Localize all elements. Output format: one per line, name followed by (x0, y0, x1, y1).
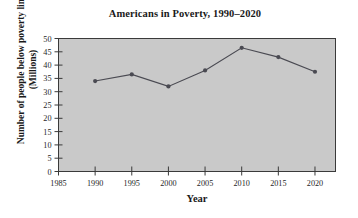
y-tick-label: 0 (47, 168, 51, 177)
y-tick-label: 5 (47, 154, 51, 163)
data-point-marker (203, 68, 207, 72)
x-tick-label: 1990 (87, 179, 103, 188)
y-tick-label: 45 (43, 48, 51, 57)
plot-canvas: 05101520253035404550 1985199019952000200… (0, 0, 358, 218)
data-point-marker (166, 84, 170, 88)
x-tick-label: 1995 (124, 179, 140, 188)
y-tick-label: 40 (43, 61, 51, 70)
y-tick-label: 15 (43, 128, 51, 137)
x-tick-label: 2010 (234, 179, 250, 188)
data-point-marker (240, 46, 244, 50)
y-tick-label: 10 (43, 141, 51, 150)
x-tick-label: 2015 (270, 179, 286, 188)
data-point-marker (93, 79, 97, 83)
x-tick-label: 2005 (197, 179, 213, 188)
y-tick-labels: 05101520253035404550 (43, 35, 51, 177)
data-point-marker (130, 72, 134, 76)
y-tick-label: 30 (43, 88, 51, 97)
data-point-marker (276, 55, 280, 59)
x-tick-label: 2000 (160, 179, 176, 188)
chart-figure: Americans in Poverty, 1990–2020 Number o… (0, 0, 358, 218)
y-tick-label: 20 (43, 114, 51, 123)
plot-background (59, 39, 336, 172)
data-point-marker (313, 70, 317, 74)
plot-area: 05101520253035404550 1985199019952000200… (43, 35, 335, 188)
y-tick-label: 25 (43, 101, 51, 110)
y-tick-label: 50 (43, 35, 51, 44)
y-tick-label: 35 (43, 74, 51, 83)
x-tick-label: 1985 (50, 179, 66, 188)
x-tick-label: 2020 (307, 179, 323, 188)
x-tick-labels: 19851990199520002005201020152020 (50, 179, 323, 188)
